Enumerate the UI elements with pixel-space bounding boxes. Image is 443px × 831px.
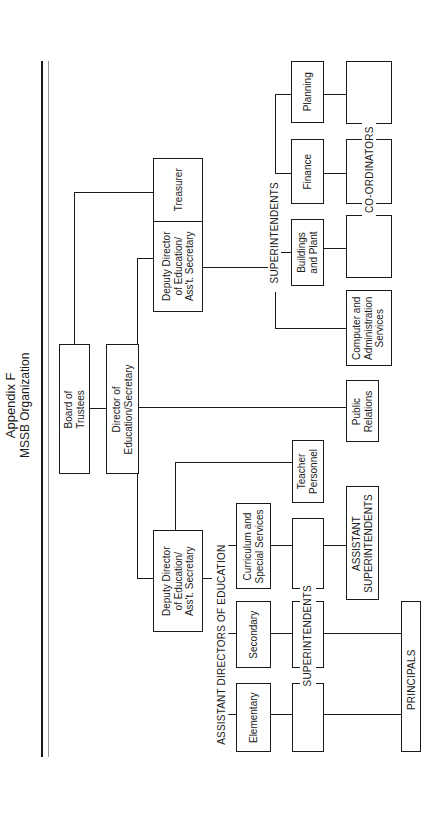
node-planning: Planning [291,61,324,123]
coordinators-group-label: CO-ORDINATORS [360,120,378,220]
node-label: Computer and Administration Services [352,296,387,359]
title-appendix: Appendix F [5,352,20,457]
node-label: Finance [302,154,314,190]
node-label: Deputy Director of Education/ Ass't. Sec… [161,546,196,616]
frame-line-inner [48,61,49,757]
connector-supt-principals-elementary [323,714,401,715]
node-label: Deputy Director of Education/ Ass't. Sec… [161,232,196,302]
node-buildings-and-plant: Buildings and Plant [291,219,324,286]
node-label: Planning [302,73,314,112]
node-curriculum-special-services: Curriculum and Special Services [236,503,271,589]
node-label: Treasurer [172,169,184,212]
node-treasurer: Treasurer [153,158,203,222]
connector-supt-principals-secondary [323,633,401,634]
node-secondary: Secondary [236,601,271,668]
connector-admin-supts-spine-bottom [275,292,276,328]
node-teacher-personnel: Teacher Personnel [292,440,324,503]
frame-line-outer [41,61,43,757]
connector-board-director [89,408,106,409]
connector-deputy-admin-supts [202,267,268,268]
connector-deputy-edu-teacher-v [175,462,176,530]
connector-admin-supts-spine-top [275,94,276,174]
node-label: Elementary [248,692,260,743]
node-coordinator-planning [346,61,392,124]
connector-deputy-edu-asst-dirs [202,578,212,579]
connector-planning-coord [323,94,346,95]
page-title: Appendix F MSSB Organization [2,320,36,490]
node-label: Director of Education/Secretary [111,364,134,454]
connector-deputy-edu-teacher-h [175,462,292,463]
node-public-relations: Public Relations [346,380,379,442]
connector-to-computer-admin [275,328,346,329]
connector-to-planning [275,94,291,95]
connector-director-public-relations [138,407,346,408]
group-label: PRINCIPALS [405,648,417,713]
connector-supt-asst-supts [323,545,346,546]
connector-to-deputy-education [137,578,153,579]
group-label: ASSISTANT DIRECTORS OF EDUCATION [216,543,228,747]
node-elementary: Elementary [236,683,271,752]
connector-secondary-supt [270,633,292,634]
connector-board-treasurer-v [74,192,75,344]
node-label: Buildings and Plant [296,231,319,273]
node-superintendent-curriculum [292,518,324,589]
node-label: Public Relations [351,390,374,432]
group-label: SUPERINTENDENTS [302,583,314,688]
connector-buildings-coord [323,248,346,249]
node-label: Teacher Personnel [297,449,320,494]
node-label: Secondary [248,611,260,659]
group-label: SUPERINTENDENTS [269,180,281,285]
node-assistant-superintendents: ASSISTANT SUPERINTENDENTS [346,486,379,600]
node-superintendent-elementary [292,683,324,752]
group-label: CO-ORDINATORS [363,125,375,216]
connector-to-deputy-admin [137,258,153,259]
node-finance: Finance [291,139,324,204]
superintendents-admin-label: SUPERINTENDENTS [266,172,284,294]
title-organization: MSSB Organization [20,352,34,457]
node-deputy-director-admin: Deputy Director of Education/ Ass't. Sec… [153,221,203,312]
node-label: Curriculum and Special Services [242,509,265,583]
node-label: ASSISTANT SUPERINTENDENTS [351,494,374,592]
node-label: Board of Trustees [63,390,86,429]
connector-elementary-supt [270,714,292,715]
connector-board-treasurer-h [74,192,153,193]
node-director: Director of Education/Secretary [106,344,139,474]
node-coordinator-buildings [346,215,392,278]
node-board-of-trustees: Board of Trustees [59,344,90,474]
node-deputy-director-education: Deputy Director of Education/ Ass't. Sec… [153,530,203,632]
assistant-directors-label: ASSISTANT DIRECTORS OF EDUCATION [214,520,230,770]
principals-label: PRINCIPALS [403,640,419,720]
node-computer-and-administration: Computer and Administration Services [346,290,392,366]
superintendents-education-label: SUPERINTENDENTS [299,586,317,686]
connector-curriculum-supt [270,545,292,546]
connector-finance-coord [323,173,346,174]
